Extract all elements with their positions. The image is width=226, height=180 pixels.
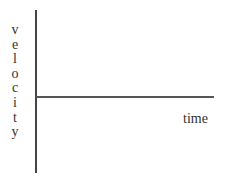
y-label-letter: i [9, 96, 21, 111]
y-axis-line [35, 10, 37, 173]
y-label-letter: o [9, 67, 21, 82]
x-axis-label: time [183, 111, 208, 127]
x-axis-line [36, 96, 214, 98]
y-label-letter: c [9, 81, 21, 96]
y-label-letter: l [9, 52, 21, 67]
y-label-letter: v [9, 23, 21, 38]
velocity-time-axes: v e l o c i t y time [0, 0, 226, 180]
y-label-letter: e [9, 38, 21, 53]
y-axis-label: v e l o c i t y [9, 23, 21, 140]
y-label-letter: y [9, 125, 21, 140]
y-label-letter: t [9, 111, 21, 126]
